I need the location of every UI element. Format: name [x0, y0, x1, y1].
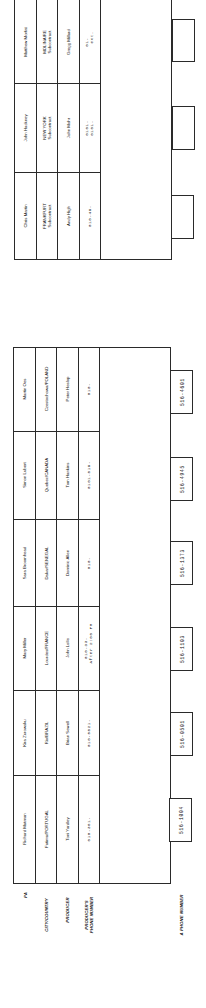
label-text: PRODUCER	[65, 897, 70, 922]
pa-cell: Sara Broomhead	[13, 519, 35, 606]
pa-cell: Mary Miller	[13, 606, 35, 690]
pa-cell: Richard Matman	[13, 775, 35, 883]
a-phone-value: 516-4945	[179, 465, 184, 493]
a-phone-box: 516-0501	[170, 712, 193, 756]
divider	[100, 0, 101, 259]
city-country: Czestochowa/POLAND	[43, 367, 48, 412]
producer-cell: Peter Heslop	[56, 347, 78, 431]
producer-phone: 010-49-	[87, 205, 92, 227]
city-country: Lourdes/FRANCE	[43, 631, 48, 665]
a-phone-box	[171, 195, 194, 239]
producer-phone: 0101- 0101-	[85, 120, 95, 136]
producer-phone: 010-5821-	[86, 718, 91, 746]
a-phone-box: 516-1004	[169, 798, 192, 842]
phone-cell: 01- ext.	[79, 0, 100, 83]
producer-name: Brian Sewell	[65, 721, 70, 745]
city-cell: FRANKFURT Subcontract	[36, 172, 57, 259]
city-country: Rio/BRAZIL	[43, 721, 48, 744]
pa-cell: Kira Zurowsku	[13, 690, 35, 775]
city-cell: NEW YORK Subcontract	[36, 83, 57, 172]
city-cell: Dakar/SENEGAL	[35, 519, 56, 606]
city-cell: Fatima/PORTUGAL	[35, 775, 56, 883]
phone-cell: 010-49-	[79, 172, 100, 259]
pa-name: Mary Miller	[22, 637, 27, 658]
pa-name: Martin Oes	[22, 378, 27, 399]
divider	[99, 347, 100, 884]
pa-name: Kira Zurowsku	[22, 719, 27, 746]
phone-cell: 0101-819-	[78, 431, 99, 519]
producer-cell: Dominic Allen	[56, 519, 78, 606]
a-phone-box	[172, 19, 195, 62]
city-cell: Czestochowa/POLAND	[35, 347, 56, 431]
pa-name: Simon Lubert	[22, 462, 27, 488]
phone-cell: 010-351-	[78, 775, 99, 883]
producer-cell: Toni Yardley	[56, 775, 78, 883]
city-cell: MOLINAIRE Subcontract	[36, 0, 57, 83]
label-producer-phone: PRODUCER'S PHONE NUMBER	[78, 885, 100, 945]
city-cell: Rio/BRAZIL	[35, 690, 56, 775]
producer-cell: Tom Hankins	[56, 431, 78, 519]
pa-cell: Chris Martin	[14, 172, 36, 259]
phone-cell: 010-	[78, 519, 99, 606]
phone-cell: 0101- 0101-	[79, 83, 100, 172]
label-text: PA	[23, 892, 28, 898]
city-country: MOLINAIRE Subcontract	[42, 30, 52, 54]
pa-cell: Martin Oes	[13, 347, 35, 431]
a-phone-value: 516-1373	[179, 549, 184, 577]
a-phone-box: 516-4601	[170, 370, 193, 414]
label-text: PRODUCER'S PHONE NUMBER	[84, 897, 94, 934]
producer-name: Gregg Millard	[66, 29, 71, 55]
producer-name: Dominic Allen	[65, 549, 70, 575]
city-country: Quebec/CANADA	[43, 458, 48, 492]
producer-name: Peter Heslop	[65, 377, 70, 402]
a-phone-box: 516-4945	[170, 457, 193, 501]
label-text: CITY/COUNTRY	[43, 898, 48, 931]
city-cell: Lourdes/FRANCE	[35, 606, 56, 690]
label-text: A PHONE NUMBER	[179, 895, 184, 936]
producer-name: Andy High	[66, 206, 71, 226]
producer-phone: 0101-819-	[86, 461, 91, 489]
city-country: Fatima/PORTUGAL	[43, 810, 48, 848]
producer-name: Toni Yardley	[65, 817, 70, 840]
producer-phone: 010-	[86, 383, 91, 395]
pa-name: Chris Martin	[23, 204, 28, 227]
producer-phone: 010-	[86, 556, 91, 568]
label-a-phone: A PHONE NUMBER	[170, 880, 192, 950]
producer-phone: 010-33- After 2:00 PM	[84, 623, 94, 673]
producer-cell: Gregg Millard	[57, 0, 79, 83]
producer-name: John Mohr	[66, 117, 71, 137]
producer-name: Tom Hankins	[65, 463, 70, 488]
city-country: NEW YORK Subcontract	[42, 116, 52, 139]
producer-name: John Lolle	[65, 638, 70, 658]
label-city-country: CITY/COUNTRY	[35, 885, 56, 945]
city-cell: Quebec/CANADA	[35, 431, 56, 519]
pa-cell: John Hackney	[14, 83, 36, 172]
producer-cell: Andy High	[57, 172, 79, 259]
a-phone-value: 516-4601	[179, 378, 184, 406]
a-phone-value: 516-1103	[179, 635, 184, 663]
a-phone-value: 516-1004	[178, 806, 183, 834]
pa-cell: Simon Lubert	[13, 431, 35, 519]
label-producer: PRODUCER	[56, 885, 78, 935]
pa-name: Matthew Morfat	[23, 27, 28, 57]
phone-cell: 010-33- After 2:00 PM	[78, 606, 99, 690]
producer-phone: 01- ext.	[85, 31, 95, 53]
producer-cell: John Lolle	[56, 606, 78, 690]
pa-name: Sara Broomhead	[22, 546, 27, 579]
producer-cell: Brian Sewell	[56, 690, 78, 775]
divider	[14, 259, 172, 260]
a-phone-box: 516-1103	[170, 627, 193, 671]
pa-name: Richard Matman	[22, 813, 27, 845]
city-country: FRANKFURT Subcontract	[42, 203, 52, 229]
producer-phone: 010-351-	[86, 817, 91, 842]
pa-cell: Matthew Morfat	[14, 0, 36, 83]
phone-cell: 010-	[78, 347, 99, 431]
phone-cell: 010-5821-	[78, 690, 99, 775]
a-phone-box: 516-1373	[170, 541, 193, 585]
divider	[13, 883, 171, 884]
a-phone-value: 516-0501	[179, 720, 184, 748]
producer-cell: John Mohr	[57, 83, 79, 172]
a-phone-box	[172, 106, 195, 150]
pa-name: John Hackney	[23, 114, 28, 141]
label-pa: PA	[14, 880, 36, 910]
